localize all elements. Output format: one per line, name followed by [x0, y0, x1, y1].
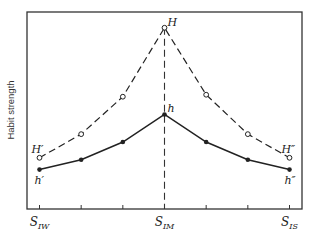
point-H-2 — [120, 94, 125, 99]
x-tick-label-im: SIM — [155, 215, 175, 231]
habit-strength-chart: Habit strength SIWSIMSIS H′HH″h′hh″ — [0, 0, 320, 232]
point-h-2 — [121, 140, 126, 145]
point-label-h-0: h′ — [35, 174, 45, 187]
point-H-3 — [162, 25, 167, 30]
point-H-5 — [245, 132, 250, 137]
point-h-1 — [79, 157, 84, 162]
point-h-4 — [204, 140, 209, 145]
point-h-3 — [162, 112, 167, 117]
y-axis-label: Habit strength — [5, 80, 16, 139]
point-H-0 — [37, 155, 42, 160]
point-label-h-6: h″ — [285, 174, 297, 187]
point-h-0 — [37, 167, 42, 172]
x-tick-label-is: SIS — [281, 215, 298, 231]
point-h-5 — [246, 157, 251, 162]
point-H-6 — [287, 155, 292, 160]
x-tick-label-iw: SIW — [30, 215, 50, 231]
point-H-1 — [79, 132, 84, 137]
point-h-6 — [287, 167, 292, 172]
point-label-h-6: H″ — [281, 143, 297, 156]
point-label-h-0: H′ — [31, 143, 45, 156]
point-H-4 — [204, 92, 209, 97]
point-label-h-3: H — [167, 16, 178, 29]
point-label-h-3: h — [168, 102, 175, 115]
